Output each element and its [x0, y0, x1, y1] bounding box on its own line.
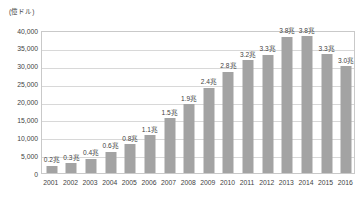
- bar-value-label: 0.3兆: [63, 154, 79, 162]
- x-axis-tick-label: 2015: [316, 178, 336, 187]
- bar-slot: 1.1兆: [140, 32, 160, 173]
- y-axis-tick-label: 0: [4, 171, 38, 178]
- bar-slot: 3.3兆: [317, 32, 337, 173]
- y-axis-tick-label: 5,000: [4, 153, 38, 160]
- bar[interactable]: [184, 104, 195, 173]
- bar-value-label: 1.9兆: [181, 95, 197, 103]
- bar[interactable]: [144, 135, 155, 173]
- bar[interactable]: [86, 159, 97, 173]
- bar[interactable]: [125, 144, 136, 173]
- bar-slot: 0.6兆: [101, 32, 121, 173]
- x-axis-tick-label: 2011: [237, 178, 257, 187]
- y-axis-tick-label: 35,000: [4, 45, 38, 52]
- bar-slot: 0.3兆: [62, 32, 82, 173]
- bar-slot: 0.2兆: [42, 32, 62, 173]
- bar-value-label: 3.0兆: [338, 57, 354, 65]
- bar-value-label: 3.3兆: [318, 45, 334, 53]
- x-axis-tick-label: 2007: [159, 178, 179, 187]
- bar-slot: 3.2兆: [238, 32, 258, 173]
- y-axis-tick-label: 25,000: [4, 81, 38, 88]
- x-axis-tick-label: 2014: [296, 178, 316, 187]
- x-axis-tick-label: 2012: [257, 178, 277, 187]
- bar[interactable]: [223, 72, 234, 173]
- bar-value-label: 1.1兆: [142, 126, 158, 134]
- bar[interactable]: [164, 118, 175, 173]
- bar-value-label: 0.6兆: [103, 142, 119, 150]
- bar-slot: 0.4兆: [81, 32, 101, 173]
- bar-slot: 3.0兆: [336, 32, 356, 173]
- bar-value-label: 0.4兆: [83, 149, 99, 157]
- bar-slot: 1.9兆: [179, 32, 199, 173]
- bar-slot: 3.3兆: [258, 32, 278, 173]
- x-axis-tick-label: 2004: [100, 178, 120, 187]
- y-axis-tick-label: 10,000: [4, 135, 38, 142]
- x-axis-tick-label: 2006: [139, 178, 159, 187]
- bar[interactable]: [262, 55, 273, 173]
- y-axis-tick-label: 15,000: [4, 117, 38, 124]
- plot-area: 0.2兆0.3兆0.4兆0.6兆0.8兆1.1兆1.5兆1.9兆2.4兆2.8兆…: [41, 31, 355, 174]
- bar-value-label: 1.5兆: [161, 109, 177, 117]
- bar-value-label: 2.8兆: [220, 62, 236, 70]
- x-axis-tick-label: 2003: [80, 178, 100, 187]
- x-axis-tick-label: 2005: [120, 178, 140, 187]
- bar-value-label: 3.8兆: [299, 27, 315, 35]
- bar[interactable]: [301, 36, 312, 173]
- bar[interactable]: [66, 163, 77, 173]
- bar-slot: 2.8兆: [219, 32, 239, 173]
- bar[interactable]: [105, 152, 116, 173]
- bar[interactable]: [203, 88, 214, 173]
- bar-value-label: 3.3兆: [260, 45, 276, 53]
- bar[interactable]: [243, 60, 254, 173]
- bar[interactable]: [46, 166, 57, 173]
- bar-slot: 3.8兆: [278, 32, 298, 173]
- x-axis-tick-label: 2008: [178, 178, 198, 187]
- bar-value-label: 3.2兆: [240, 51, 256, 59]
- bar-slot: 2.4兆: [199, 32, 219, 173]
- bar-slot: 3.8兆: [297, 32, 317, 173]
- x-axis-tick-label: 2013: [277, 178, 297, 187]
- bar-value-label: 3.8兆: [279, 27, 295, 35]
- bar-value-label: 2.4兆: [201, 78, 217, 86]
- x-axis-tick-label: 2010: [218, 178, 238, 187]
- x-axis-tick-label: 2016: [335, 178, 355, 187]
- bar-value-label: 0.8兆: [122, 135, 138, 143]
- y-axis-tick-label: 30,000: [4, 63, 38, 70]
- bar-slot: 0.8兆: [121, 32, 141, 173]
- bar[interactable]: [321, 54, 332, 173]
- bar-slot: 1.5兆: [160, 32, 180, 173]
- x-axis-tick-label: 2009: [198, 178, 218, 187]
- bar[interactable]: [282, 37, 293, 173]
- x-axis-tick-label: 2001: [41, 178, 61, 187]
- y-axis-tick-label: 40,000: [4, 28, 38, 35]
- bar-chart: (億ドル) 40,00035,00030,00025,00020,00015,0…: [0, 0, 363, 214]
- y-axis-tick-label: 20,000: [4, 99, 38, 106]
- bar[interactable]: [341, 66, 352, 173]
- y-axis-unit-label: (億ドル): [9, 7, 34, 16]
- x-axis-tick-label: 2002: [61, 178, 81, 187]
- bar-value-label: 0.2兆: [44, 156, 60, 164]
